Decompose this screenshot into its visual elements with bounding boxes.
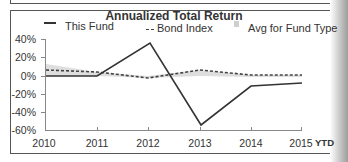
x-tick-label: 2014 (231, 137, 271, 149)
ytd-label: YTD (315, 137, 334, 148)
x-tick-label: 2012 (128, 137, 168, 149)
this-fund-line (46, 43, 302, 125)
x-tick-label: 2011 (77, 137, 117, 149)
x-tick-label: 2013 (180, 137, 220, 149)
x-tick-label: 2010 (24, 137, 64, 149)
y-ticks (41, 40, 45, 113)
